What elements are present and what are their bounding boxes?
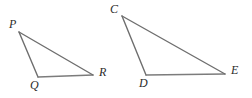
triangle-pqr	[19, 32, 93, 77]
vertex-label-d: D	[139, 77, 148, 89]
edge-pr	[19, 32, 93, 75]
two-similar-triangles-diagram: P Q R C D E	[0, 0, 252, 98]
vertex-label-r: R	[99, 66, 106, 78]
edge-ce	[122, 16, 225, 74]
vertex-label-p: P	[9, 18, 16, 30]
vertex-label-e: E	[231, 64, 238, 76]
vertex-label-q: Q	[30, 79, 39, 91]
edge-qr	[38, 75, 93, 77]
vertex-label-c: C	[110, 3, 118, 15]
triangle-cde	[122, 16, 225, 75]
edge-de	[146, 74, 225, 75]
edge-pq	[19, 32, 38, 77]
edge-cd	[122, 16, 146, 75]
